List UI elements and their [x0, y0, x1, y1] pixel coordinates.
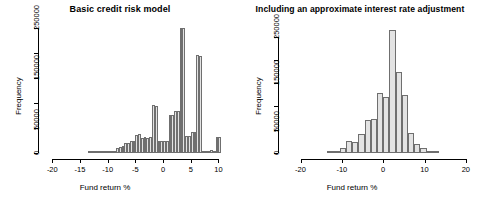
x-axis-tick — [425, 159, 426, 163]
figure-canvas: Basic credit risk model -20-15-10-505100… — [0, 0, 480, 202]
x-axis-title: Fund return % — [327, 183, 378, 192]
x-axis-tick-label: -20 — [295, 165, 306, 174]
x-axis-tick — [383, 159, 384, 163]
x-axis-tick — [135, 159, 136, 163]
y-axis-tick-label: 250000 — [272, 14, 281, 39]
x-axis-tick-label: -5 — [132, 165, 139, 174]
x-axis-tick — [191, 159, 192, 163]
histogram-bars — [44, 25, 224, 153]
plot-area — [44, 25, 224, 153]
y-axis-tick — [34, 53, 38, 54]
x-axis-tick — [108, 159, 109, 163]
x-axis-tick — [218, 159, 219, 163]
y-axis-tick — [274, 60, 278, 61]
y-axis-tick — [274, 106, 278, 107]
x-axis-tick-label: -10 — [336, 165, 347, 174]
y-axis-tick-label: 0 — [272, 151, 281, 155]
histogram-bar — [182, 28, 185, 153]
y-axis-tick-label: 150000 — [272, 60, 281, 85]
x-axis-tick-label: 10 — [420, 165, 428, 174]
y-axis-tick-label: 250000 — [32, 4, 41, 29]
chart-panel-basic-credit-risk-model: Basic credit risk model -20-15-10-505100… — [0, 0, 240, 202]
x-axis-tick-label: 10 — [214, 165, 222, 174]
histogram-bar — [199, 56, 202, 153]
y-axis-tick-label: 0 — [32, 151, 41, 155]
chart-panel-interest-rate-adjustment: Including an approximate interest rate a… — [240, 0, 480, 202]
y-axis-line — [38, 28, 39, 153]
histogram-bar — [433, 151, 439, 153]
x-axis-tick — [466, 159, 467, 163]
y-axis-line — [278, 37, 279, 153]
x-axis-tick — [342, 159, 343, 163]
x-axis-tick — [80, 159, 81, 163]
histogram-bars — [284, 25, 470, 153]
x-axis-tick-label: 0 — [161, 165, 165, 174]
y-axis-tick-label: 150000 — [32, 55, 41, 80]
x-axis-tick — [301, 159, 302, 163]
x-axis-tick — [52, 159, 53, 163]
chart-title: Including an approximate interest rate a… — [240, 4, 480, 14]
plot-area — [284, 25, 470, 153]
y-axis-title: Frequency — [254, 77, 263, 115]
y-axis-tick-label: 50000 — [272, 111, 281, 132]
x-axis-tick-label: -20 — [47, 165, 58, 174]
x-axis-tick-label: -10 — [102, 165, 113, 174]
x-axis-title: Fund return % — [80, 183, 131, 192]
y-axis-tick-label: 50000 — [32, 109, 41, 130]
histogram-bar — [218, 137, 221, 153]
x-axis-tick-label: 20 — [462, 165, 470, 174]
y-axis-tick — [34, 103, 38, 104]
y-axis-title: Frequency — [14, 77, 23, 115]
x-axis-tick — [163, 159, 164, 163]
x-axis-tick-label: -15 — [75, 165, 86, 174]
x-axis-tick-label: 0 — [381, 165, 385, 174]
x-axis-tick-label: 5 — [189, 165, 193, 174]
